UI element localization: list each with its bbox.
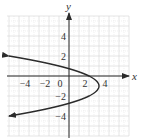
x-tick-label: 4 [103, 78, 108, 89]
y-tick-label: 4 [61, 31, 66, 42]
x-axis-label: x [131, 70, 137, 82]
x-tick-label: −2 [40, 78, 51, 89]
y-axis-label: y [65, 0, 71, 12]
y-tick-label: −2 [55, 91, 66, 102]
y-tick-label: −4 [55, 111, 66, 122]
x-tick-label: −4 [20, 78, 31, 89]
x-tick-label: 0 [58, 78, 63, 89]
parabola-graph: x y −4−202442−2−4 [0, 0, 143, 140]
y-tick-label: 2 [61, 51, 66, 62]
x-tick-label: 2 [83, 78, 88, 89]
